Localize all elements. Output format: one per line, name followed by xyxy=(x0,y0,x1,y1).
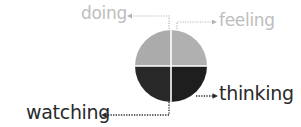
connector-thinking xyxy=(196,93,218,98)
arrow-right-icon xyxy=(212,20,217,25)
label-doing: doing xyxy=(81,5,127,22)
connector-watching xyxy=(101,102,169,118)
quadrant-feeling xyxy=(171,30,207,66)
label-feeling: feeling xyxy=(219,12,275,29)
quadrant-doing xyxy=(135,30,171,66)
learning-styles-diagram: doing feeling thinking watching xyxy=(0,0,301,127)
connector-feeling xyxy=(177,20,217,30)
arrow-left-icon xyxy=(127,14,132,19)
connector-doing xyxy=(127,14,169,30)
quadrant-watching xyxy=(135,66,171,102)
arrow-right-icon xyxy=(213,93,219,98)
label-watching: watching xyxy=(26,103,110,122)
label-thinking: thinking xyxy=(219,84,294,103)
